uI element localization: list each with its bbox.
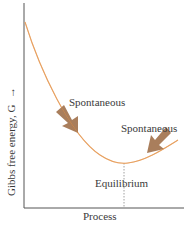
spontaneous-label-right: Spontaneous <box>121 123 177 134</box>
y-axis-label-text: Gibbs free energy, G <box>5 105 17 196</box>
gibbs-energy-diagram <box>0 0 186 227</box>
x-axis-label: Process <box>83 211 117 222</box>
equilibrium-label: Equilibrium <box>95 178 148 189</box>
up-arrow-icon: → <box>5 87 17 98</box>
y-axis-label: Gibbs free energy, G → <box>6 87 17 196</box>
spontaneous-label-left: Spontaneous <box>69 97 125 108</box>
